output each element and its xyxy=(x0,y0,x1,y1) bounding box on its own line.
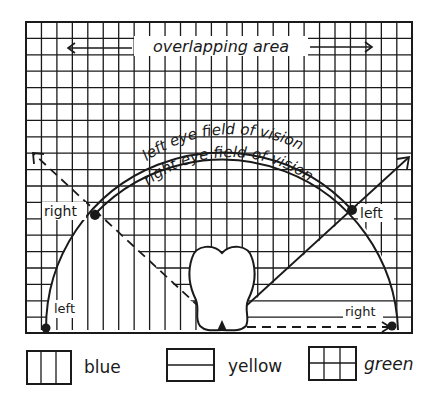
upper-left-point-label: right xyxy=(44,203,77,219)
lower-left-dot xyxy=(42,324,51,333)
upper-right-point-label: left xyxy=(360,205,383,221)
legend xyxy=(27,347,356,384)
upper-right-dot xyxy=(347,205,357,215)
legend-label-green: green xyxy=(364,354,413,374)
lower-right-dot xyxy=(388,322,397,331)
legend-label-yellow: yellow xyxy=(228,356,282,376)
vision-field-diagram: overlapping area left eye field of visio… xyxy=(0,0,436,402)
legend-label-blue: blue xyxy=(84,357,121,377)
legend-swatch-blue xyxy=(27,351,71,384)
head-outline xyxy=(189,247,254,331)
upper-left-dot xyxy=(90,210,100,220)
lower-right-point-label: right xyxy=(345,304,376,319)
right-baseline xyxy=(232,322,390,332)
legend-swatch-yellow xyxy=(167,349,214,381)
lower-left-point-label: left xyxy=(54,301,75,316)
overlapping-area-label: overlapping area xyxy=(153,37,289,56)
legend-swatch-green xyxy=(309,347,356,380)
